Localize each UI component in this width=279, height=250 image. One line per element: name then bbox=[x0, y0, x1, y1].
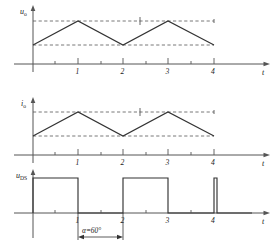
panel-uo: uo 1 2 3 4 t bbox=[14, 5, 270, 77]
io-y-arrow bbox=[31, 97, 36, 103]
uds-y-arrow bbox=[31, 169, 36, 175]
uo-xtick-1: 1 bbox=[76, 67, 80, 76]
uds-axis-label: uDS bbox=[16, 171, 27, 181]
alpha-arrow-right bbox=[117, 235, 123, 239]
uo-xtick-2: 2 bbox=[121, 67, 125, 76]
uo-x-arrow bbox=[264, 62, 271, 66]
uds-x-arrow bbox=[264, 211, 271, 215]
uo-xtick-3: 3 bbox=[165, 67, 170, 76]
uds-waveform bbox=[33, 178, 252, 213]
panel-io: io 1 2 3 4 t bbox=[14, 97, 270, 168]
uds-xtick-3: 3 bbox=[165, 216, 170, 225]
alpha-label: α=60° bbox=[82, 226, 101, 235]
alpha-arrow-left bbox=[78, 235, 84, 239]
io-xtick-1: 1 bbox=[76, 158, 80, 167]
io-axis-label: io bbox=[21, 99, 26, 109]
io-xtick-4: 4 bbox=[211, 158, 215, 167]
uo-t-label: t bbox=[262, 68, 265, 77]
uds-t-label: t bbox=[262, 217, 265, 226]
panel-uds: uDS 1 2 3 4 t α=60° bbox=[14, 169, 270, 240]
uo-y-arrow bbox=[31, 5, 36, 11]
uds-xtick-2: 2 bbox=[121, 216, 125, 225]
io-xtick-3: 3 bbox=[165, 158, 170, 167]
uo-axis-label: uo bbox=[20, 7, 27, 17]
uo-waveform bbox=[33, 21, 214, 45]
io-xtick-2: 2 bbox=[121, 158, 125, 167]
io-x-arrow bbox=[264, 153, 271, 157]
io-waveform bbox=[33, 112, 214, 136]
uds-xtick-4: 4 bbox=[211, 216, 215, 225]
uo-xtick-4: 4 bbox=[211, 67, 215, 76]
alpha-annotation: α=60° bbox=[78, 213, 123, 240]
figure-svg: uo 1 2 3 4 t io 1 2 3 bbox=[0, 0, 279, 250]
uo-xticks bbox=[55, 58, 214, 64]
waveform-figure: uo 1 2 3 4 t io 1 2 3 bbox=[0, 0, 279, 250]
io-t-label: t bbox=[262, 159, 265, 168]
io-xticks bbox=[55, 149, 214, 155]
uds-xtick-1: 1 bbox=[76, 216, 80, 225]
